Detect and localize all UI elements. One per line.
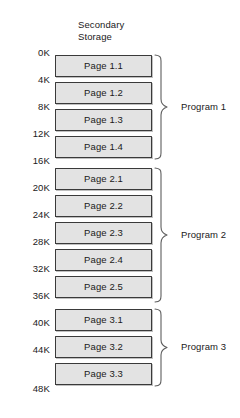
page-box-3-1[interactable]: Page 3.1 <box>55 309 152 331</box>
address-label-36k: 36K <box>14 291 50 301</box>
address-label-32k: 32K <box>14 264 50 274</box>
address-label-48k: 48K <box>14 384 50 394</box>
page-box-label: Page 1.1 <box>56 61 151 71</box>
page-box-label: Page 3.1 <box>56 315 151 325</box>
address-label-40k: 40K <box>14 318 50 328</box>
address-label-44k: 44K <box>14 345 50 355</box>
page-box-3-2[interactable]: Page 3.2 <box>55 336 152 358</box>
secondary-storage-diagram: Secondary Storage 0K 4K 8K 12K 16K 20K 2… <box>0 0 240 418</box>
column-heading: Secondary Storage <box>78 19 124 42</box>
address-label-16k: 16K <box>14 156 50 166</box>
page-box-3-3[interactable]: Page 3.3 <box>55 363 152 385</box>
page-box-2-2[interactable]: Page 2.2 <box>55 195 152 217</box>
page-box-1-1[interactable]: Page 1.1 <box>55 55 152 77</box>
page-box-label: Page 2.1 <box>56 174 151 184</box>
program-label-3: Program 3 <box>181 342 226 352</box>
page-box-label: Page 1.3 <box>56 115 151 125</box>
program-label-1: Program 1 <box>181 102 226 112</box>
page-box-1-2[interactable]: Page 1.2 <box>55 82 152 104</box>
program-label-2: Program 2 <box>181 230 226 240</box>
address-label-28k: 28K <box>14 237 50 247</box>
page-box-label: Page 3.2 <box>56 342 151 352</box>
address-label-12k: 12K <box>14 129 50 139</box>
page-box-label: Page 2.4 <box>56 255 151 265</box>
page-box-2-5[interactable]: Page 2.5 <box>55 276 152 298</box>
address-label-24k: 24K <box>14 210 50 220</box>
page-box-1-3[interactable]: Page 1.3 <box>55 109 152 131</box>
page-box-label: Page 2.5 <box>56 282 151 292</box>
address-label-20k: 20K <box>14 183 50 193</box>
address-label-0k: 0K <box>14 48 50 58</box>
page-box-label: Page 1.2 <box>56 88 151 98</box>
page-box-label: Page 1.4 <box>56 142 151 152</box>
brace-program-2 <box>153 167 179 303</box>
address-label-8k: 8K <box>14 102 50 112</box>
brace-program-1 <box>153 54 179 160</box>
page-box-label: Page 3.3 <box>56 369 151 379</box>
brace-program-3 <box>153 308 179 387</box>
page-box-2-3[interactable]: Page 2.3 <box>55 222 152 244</box>
page-box-label: Page 2.3 <box>56 228 151 238</box>
address-label-4k: 4K <box>14 75 50 85</box>
page-box-2-4[interactable]: Page 2.4 <box>55 249 152 271</box>
page-box-2-1[interactable]: Page 2.1 <box>55 168 152 190</box>
page-box-label: Page 2.2 <box>56 201 151 211</box>
page-box-1-4[interactable]: Page 1.4 <box>55 136 152 158</box>
